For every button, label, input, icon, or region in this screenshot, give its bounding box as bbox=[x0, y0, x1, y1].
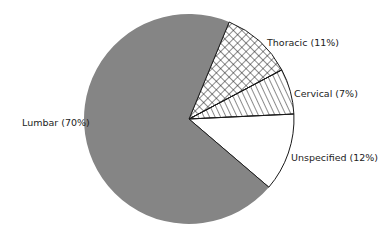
label-cervical: Cervical (7%) bbox=[294, 88, 358, 99]
label-lumbar: Lumbar (70%) bbox=[22, 117, 90, 128]
label-unspecified: Unspecified (12%) bbox=[291, 152, 378, 163]
label-thoracic: Thoracic (11%) bbox=[267, 37, 339, 48]
